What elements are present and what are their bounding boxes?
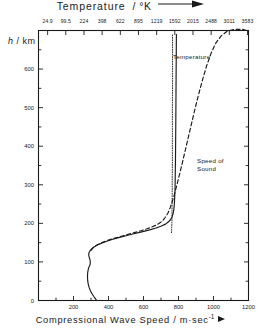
- series-path-0: [88, 34, 177, 300]
- plot-canvas: [0, 0, 261, 331]
- plot-frame: [39, 31, 249, 301]
- series-path-1: [91, 29, 247, 250]
- figure-root: Temperature / °K h / km Compressional Wa…: [0, 0, 261, 331]
- series-path-2: [172, 34, 173, 232]
